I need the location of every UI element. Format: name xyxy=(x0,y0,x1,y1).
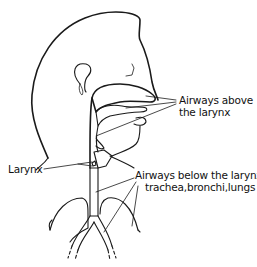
lung-right-edge xyxy=(138,230,140,232)
epiglottis xyxy=(96,138,104,149)
leader-above-1 xyxy=(146,96,176,100)
bronchus-left-inner xyxy=(78,222,94,250)
label-airways-above-line2: the larynx xyxy=(179,107,230,118)
label-airways-above-line1: Airways above xyxy=(179,95,253,106)
bronchus-right-inner xyxy=(94,222,108,250)
ear xyxy=(75,64,91,92)
bronchus-right-dash xyxy=(112,246,116,258)
leader-below-1 xyxy=(96,178,134,192)
vocal-fold xyxy=(92,161,96,166)
neck-front xyxy=(110,156,134,168)
bronchus-right-dash2 xyxy=(108,250,110,260)
bronchus-left-dash2 xyxy=(75,250,78,260)
label-larynx: Larynx xyxy=(8,164,42,175)
larynx-box xyxy=(94,150,112,168)
label-airways-below-line1: Airways below the larynx: xyxy=(135,170,257,181)
leader-larynx-1 xyxy=(44,162,92,169)
head-airway-illustration xyxy=(0,0,257,267)
ear-inner xyxy=(79,84,83,95)
bronchus-left xyxy=(72,216,90,246)
leader-below-2 xyxy=(104,182,136,232)
leader-above-3 xyxy=(96,104,176,136)
nose-mark xyxy=(126,64,134,76)
label-airways-below-line2: trachea,bronchi,lungs xyxy=(145,182,255,193)
oral-cavity xyxy=(96,105,147,126)
airway-diagram: Airways above the larynx Larynx Airways … xyxy=(0,0,257,267)
pharynx-back xyxy=(90,98,92,168)
lung-left xyxy=(50,198,88,242)
bronchus-left-dash xyxy=(68,246,72,258)
chin xyxy=(112,126,140,156)
